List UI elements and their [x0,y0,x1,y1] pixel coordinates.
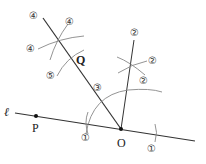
step-label-4a: ④ [29,10,38,21]
step-label-5: ⑤ [46,70,55,81]
step-label-4b: ④ [65,16,74,27]
point-q-label: Q [76,53,85,67]
arc-step-4-b [50,24,68,60]
line-l-label: ℓ [4,105,9,119]
arc-step-2-b [118,61,147,73]
arc-step-4-a [38,36,84,49]
step-label-1a: ① [81,132,90,143]
line-perpendicular [121,40,134,129]
line-l [15,113,195,141]
step-label-2c: ② [139,75,148,86]
point-o [119,127,123,131]
step-label-2b: ② [148,55,157,66]
step-label-1b: ① [147,143,156,154]
step-label-2a: ② [130,27,139,38]
step-label-4c: ④ [26,43,35,54]
arc-step-1-right [155,124,157,142]
step-label-3: ③ [93,82,102,93]
construction-diagram: ℓ P O Q ④ ④ ④ ⑤ ③ ② ② ② ① ① [0,0,206,164]
point-p-label: P [32,121,39,135]
point-p [34,114,38,118]
point-o-label: O [117,136,126,150]
